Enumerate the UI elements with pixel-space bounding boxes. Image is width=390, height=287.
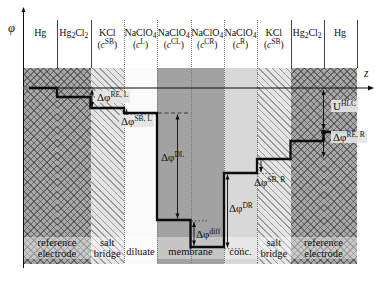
phase-label-hg-right: Hg [334,27,346,39]
arrowhead-up [90,90,94,95]
annotation-label-dphi-diff: Δφdiff [196,228,220,240]
region-label-salt-bridge-right: saltbridge [260,238,287,259]
phase-label-naclo4-cl: NaClO4(cCL) [158,27,190,51]
arrowhead-up [176,115,180,120]
phase-label-kcl-left: KCl(cSB) [97,27,117,51]
phi-axis-label: φ [8,21,15,36]
region-label-conc: conc. [229,247,251,258]
annotation-label-u-hlc: UHLC [331,100,358,112]
galvani-potential-profile-figure: HgHg2Cl2KCl(cSB)NaClO4(cL)NaClO4(cCL)NaC… [0,0,390,287]
phase-label-naclo4-cr: NaClO4(cCR) [191,27,223,51]
region-label-reference-electrode-right: referenceelectrode [304,238,343,259]
arrowhead-down [322,124,326,129]
potential-profile-line [24,88,357,247]
region-label-diluate: diluate [126,247,155,258]
phase-label-kcl-right: KCl(cSB) [264,27,284,51]
arrowhead-down [259,167,263,172]
region-label-reference-electrode-left: referenceelectrode [37,238,76,259]
arrowhead-right [368,86,374,91]
hlc-terminal-dot [321,129,326,134]
phase-label-hg2cl2-right: Hg2Cl2 [292,27,321,39]
region-label-salt-bridge-left: saltbridge [94,238,121,259]
annotation-label-dphi-sb-r: ΔφSB, R [254,176,285,188]
phase-label-naclo4-l: NaClO4(cL) [124,27,156,51]
phase-label-naclo4-r: NaClO4(cR) [224,27,256,51]
arrowhead-down [176,214,180,219]
arrowhead-down [192,241,196,246]
arrowhead-up [322,90,326,95]
region-label-membrane: membrane [168,247,212,258]
annotation-label-dphi-dl: ΔφDL [161,151,184,163]
annotation-label-dphi-dr: ΔφDR [229,202,253,214]
arrowhead-up [226,175,230,180]
annotation-label-dphi-re-l: ΔφRE, L [95,91,130,103]
phase-label-hg2cl2-left: Hg2Cl2 [59,27,88,39]
annotation-label-dphi-re-r: ΔφRE, R [331,131,367,143]
arrowhead-up [192,222,196,227]
annotation-label-dphi-sb-l: ΔφSB, L [119,115,154,127]
arrowhead-down [322,152,326,157]
arrowhead-up [22,7,26,12]
phase-label-hg-left: Hg [34,27,46,39]
z-axis-label: z [364,67,368,79]
arrowhead-up [322,135,326,140]
